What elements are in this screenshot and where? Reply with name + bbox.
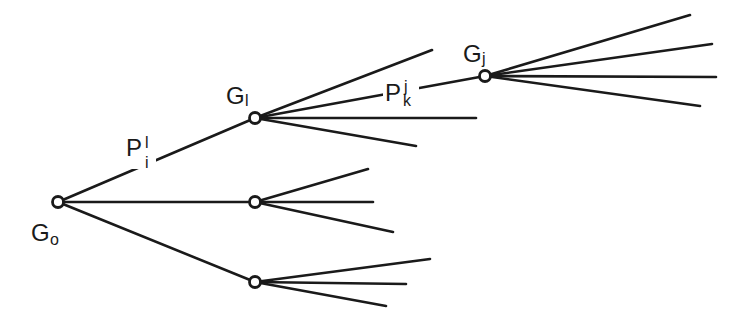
node-g0 xyxy=(53,197,64,208)
root-edges xyxy=(58,118,255,282)
edge-label-pkj-sub: k xyxy=(403,92,412,109)
edge-label-pkj: P j k xyxy=(383,76,419,109)
gm-branches xyxy=(255,169,393,232)
gj-branches xyxy=(485,15,716,106)
node-label-g0-base: G xyxy=(31,219,50,246)
edge-gb-branch-3 xyxy=(255,282,386,306)
edge-gb-branch-2 xyxy=(255,282,406,284)
node-label-gj-base: G xyxy=(463,40,482,67)
edge-gm-branch-3 xyxy=(255,202,393,232)
edge-label-pil: P l i xyxy=(124,134,156,171)
node-label-g0-sub: o xyxy=(50,231,59,248)
node-gb xyxy=(250,277,261,288)
edge-gl-branch-4 xyxy=(255,118,416,146)
node-label-gj-sub: j xyxy=(481,50,486,67)
node-label-gj: G j xyxy=(463,40,486,67)
edge-label-pil-base: P xyxy=(126,134,142,161)
edge-gj-branch-1 xyxy=(485,15,690,76)
edge-g0-gb xyxy=(58,202,255,282)
nodes xyxy=(53,71,491,288)
edge-label-pil-sup: l xyxy=(145,134,149,151)
edge-gj-branch-3 xyxy=(485,76,716,77)
node-label-gl-sub: l xyxy=(245,92,249,109)
edge-gm-branch-1 xyxy=(255,169,368,202)
node-label-g0: G o xyxy=(31,219,59,248)
node-gm xyxy=(250,197,261,208)
edge-g0-gl xyxy=(58,118,255,202)
gb-branches xyxy=(255,259,430,306)
edge-gj-branch-2 xyxy=(485,44,712,76)
edge-label-pkj-base: P xyxy=(385,79,401,106)
gl-branches xyxy=(255,50,485,146)
node-gj xyxy=(480,71,491,82)
node-label-gl: G l xyxy=(226,82,249,109)
edge-gb-branch-1 xyxy=(255,259,430,282)
edge-gj-branch-4 xyxy=(485,76,700,106)
node-label-gl-base: G xyxy=(226,82,245,109)
tree-diagram: P l i P j k G o G l G j xyxy=(0,0,740,330)
edge-label-pil-sub: i xyxy=(145,154,149,171)
node-gl xyxy=(250,113,261,124)
edge-gl-gj xyxy=(255,76,485,118)
